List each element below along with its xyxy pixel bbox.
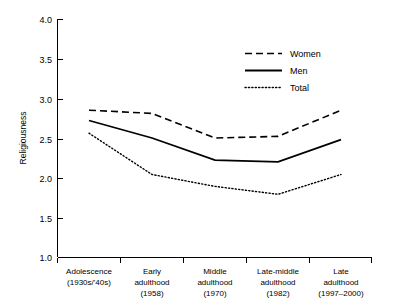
x-category-label-line: (1982) (266, 289, 289, 298)
series-line-women (89, 110, 341, 138)
y-tick-marks (58, 20, 63, 258)
y-axis-title: Religiousness (18, 112, 28, 165)
y-tick-label: 1.5 (39, 214, 52, 224)
x-category-label-line: Adolescence (66, 267, 112, 276)
series-line-total (89, 133, 341, 194)
line-chart: 4.0 3.5 3.0 2.5 2.0 1.5 1.0 Religiousnes… (0, 0, 393, 306)
x-category-label-line: adulthood (323, 278, 358, 287)
x-category-label-line: Early (143, 267, 161, 276)
x-category-labels: Adolescence (1930s/'40s) Early adulthood… (66, 267, 364, 298)
x-category-label-line: Late-middle (257, 267, 299, 276)
x-category-label-line: adulthood (260, 278, 295, 287)
x-category-label-line: (1997–2000) (318, 289, 364, 298)
x-category-label-line: (1958) (140, 289, 163, 298)
y-tick-label: 1.0 (39, 253, 52, 263)
y-tick-labels: 4.0 3.5 3.0 2.5 2.0 1.5 1.0 (39, 15, 52, 263)
y-tick-label: 2.5 (39, 135, 52, 145)
x-category-label-line: Middle (203, 267, 227, 276)
chart-figure: 4.0 3.5 3.0 2.5 2.0 1.5 1.0 Religiousnes… (0, 0, 393, 306)
legend: Women Men Total (245, 49, 321, 93)
legend-label-women: Women (290, 49, 321, 59)
legend-label-total: Total (290, 83, 309, 93)
series-group (89, 110, 341, 194)
y-tick-label: 3.0 (39, 95, 52, 105)
x-category-label-line: (1970) (203, 289, 226, 298)
x-category-label-line: adulthood (134, 278, 169, 287)
x-category-label-line: Late (333, 267, 349, 276)
x-category-label-line: (1930s/'40s) (67, 278, 111, 287)
y-tick-label: 3.5 (39, 55, 52, 65)
legend-label-men: Men (290, 66, 308, 76)
x-tick-marks (58, 258, 372, 264)
y-tick-label: 4.0 (39, 15, 52, 25)
x-category-label-line: adulthood (197, 278, 232, 287)
y-tick-label: 2.0 (39, 174, 52, 184)
